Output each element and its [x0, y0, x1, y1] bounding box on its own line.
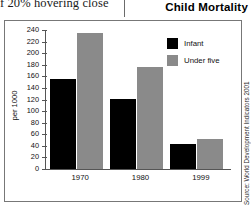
y-tick-mark [42, 53, 47, 54]
legend-swatch-icon [167, 55, 178, 66]
source-credit-wrap: Source: World Development Indicators 200… [243, 75, 251, 205]
x-axis-label-1970: 1970 [50, 173, 110, 182]
y-tick-label: 20 [5, 153, 39, 160]
y-tick-mark [42, 42, 47, 43]
plot-area: 240220200180160140120100806040200 per 10… [5, 21, 241, 201]
bar-infant-1970 [50, 79, 76, 169]
y-tick-mark [42, 65, 47, 66]
legend-label: Under five [184, 56, 220, 65]
y-tick-label: 220 [5, 38, 39, 45]
y-tick-mark [42, 123, 47, 124]
y-tick-label: 160 [5, 72, 39, 79]
top-strip: f 20% hovering close Child Mortality [0, 0, 251, 18]
y-tick-mark [42, 169, 47, 170]
y-tick-mark [42, 111, 47, 112]
x-axis-label-1999: 1999 [171, 173, 231, 182]
y-tick-mark [42, 100, 47, 101]
y-tick-mark [42, 30, 47, 31]
page-title: Child Mortality [165, 1, 248, 13]
legend-item-infant: Infant [167, 35, 220, 52]
legend-item-under-five: Under five [167, 52, 220, 69]
chart-frame: 240220200180160140120100806040200 per 10… [4, 20, 242, 202]
legend-label: Infant [184, 39, 204, 48]
y-tick-label: 40 [5, 142, 39, 149]
bar-infant-1999 [170, 144, 196, 169]
header-divider [124, 0, 125, 17]
y-tick-label: 200 [5, 49, 39, 56]
y-tick-mark [42, 157, 47, 158]
y-tick-mark [42, 134, 47, 135]
y-tick-mark [42, 146, 47, 147]
bar-under-five-1999 [197, 139, 223, 169]
y-tick-label: 60 [5, 130, 39, 137]
bleed-body-text: f 20% hovering close [0, 0, 109, 11]
y-tick-mark [42, 76, 47, 77]
y-tick-label: 240 [5, 26, 39, 33]
bar-under-five-1970 [77, 33, 103, 169]
legend-swatch-icon [167, 38, 178, 49]
y-tick-label: 0 [5, 165, 39, 172]
y-axis-title: per 1000 [10, 81, 19, 131]
bar-infant-1980 [110, 99, 136, 169]
x-axis-line [45, 169, 231, 170]
y-tick-mark [42, 88, 47, 89]
y-tick-label: 180 [5, 61, 39, 68]
x-axis-label-1980: 1980 [110, 173, 170, 182]
source-credit: Source: World Development Indicators 200… [243, 75, 250, 205]
chart-legend: InfantUnder five [167, 35, 220, 69]
bar-under-five-1980 [137, 67, 163, 169]
